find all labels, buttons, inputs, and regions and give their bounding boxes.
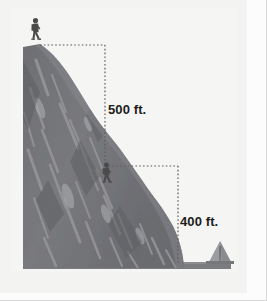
figure-root: 500 ft. 400 ft.	[0, 0, 267, 301]
illustration-panel: 500 ft. 400 ft.	[0, 0, 247, 293]
dimension-label-400: 400 ft.	[180, 215, 218, 228]
dimension-label-500: 500 ft.	[108, 103, 146, 116]
cliff-scene-svg	[0, 0, 247, 293]
